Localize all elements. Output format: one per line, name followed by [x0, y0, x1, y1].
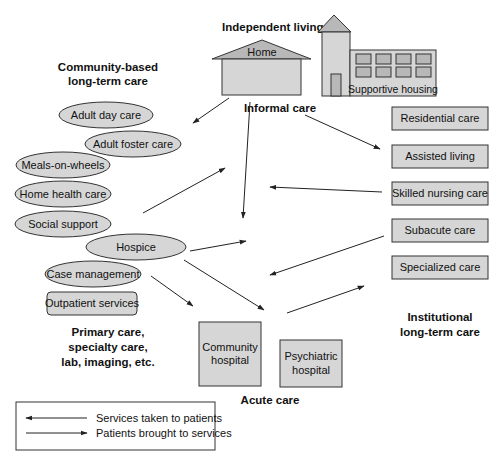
item-label: Assisted living: [405, 150, 475, 162]
community-based-heading-line1: Community-based: [58, 61, 158, 73]
item-social-support: Social support: [15, 211, 111, 237]
arrow-hospice-right: [190, 241, 246, 251]
arrow-skilled-nursing-left: [270, 187, 382, 192]
arrow-informal-to-institutional: [305, 115, 380, 149]
arrow-acute-to-institutional: [287, 286, 364, 313]
item-label: Meals-on-wheels: [21, 159, 105, 171]
independent-living-heading: Independent living: [222, 21, 324, 33]
item-label: Adult foster care: [93, 138, 173, 150]
item-label: Adult day care: [71, 109, 141, 121]
community-hospital: Community hospital: [199, 322, 261, 386]
item-specialized-care: Specialized care: [392, 256, 488, 279]
psychiatric-hospital: Psychiatric hospital: [280, 340, 342, 387]
legend-label-services-taken: Services taken to patients: [96, 412, 222, 424]
flow-arrows: [143, 98, 384, 313]
institutional-heading-line1: Institutional: [407, 311, 472, 323]
item-label: Residential care: [401, 112, 480, 124]
arrow-subacute-left: [270, 236, 384, 275]
item-skilled-nursing-care: Skilled nursing care: [392, 182, 488, 205]
item-meals-on-wheels: Meals-on-wheels: [16, 152, 110, 178]
item-label: Home health care: [20, 188, 107, 200]
arrow-home-to-community: [193, 98, 229, 123]
item-assisted-living: Assisted living: [392, 145, 488, 168]
psychiatric-hospital-line2: hospital: [292, 364, 330, 376]
legend: Services taken to patients Patients brou…: [16, 402, 232, 450]
home-label: Home: [247, 46, 276, 58]
item-label: Specialized care: [400, 261, 481, 273]
item-adult-day-care: Adult day care: [59, 102, 153, 128]
item-label: Subacute care: [405, 224, 476, 236]
item-label: Social support: [28, 218, 98, 230]
arrow-hospice-to-acute: [184, 260, 264, 310]
item-case-management: Case management: [45, 261, 141, 287]
item-adult-foster-care: Adult foster care: [85, 131, 181, 157]
primary-care-line1: Primary care,: [72, 326, 145, 338]
arrow-home-down: [243, 102, 250, 218]
community-hospital-line1: Community: [202, 341, 258, 353]
primary-care-line3: lab, imaging, etc.: [61, 356, 154, 368]
item-label: Case management: [47, 268, 140, 280]
home-building: Home: [212, 40, 311, 95]
supportive-housing-building: Supportive housing: [318, 15, 438, 96]
psychiatric-hospital-line1: Psychiatric: [284, 350, 338, 362]
item-outpatient-services: Outpatient services: [45, 292, 140, 315]
informal-care-label: Informal care: [244, 102, 316, 114]
item-label: Outpatient services: [45, 297, 140, 309]
item-label: Hospice: [116, 241, 156, 253]
institutional-heading-line2: long-term care: [400, 326, 480, 338]
item-subacute-care: Subacute care: [392, 219, 488, 242]
arrow-social-support-up: [143, 168, 225, 213]
supportive-housing-label: Supportive housing: [348, 83, 438, 95]
item-label: Skilled nursing care: [392, 187, 488, 199]
primary-care-line2: specialty care,: [68, 341, 147, 353]
item-residential-care: Residential care: [392, 107, 488, 130]
item-home-health-care: Home health care: [15, 181, 111, 207]
legend-label-patients-brought: Patients brought to services: [96, 427, 232, 439]
long-term-care-diagram: Independent living Home Supportive housi…: [0, 0, 501, 461]
arrow-case-management-to-acute: [151, 276, 193, 306]
item-hospice: Hospice: [86, 234, 186, 260]
community-hospital-line2: hospital: [211, 354, 249, 366]
acute-care-heading: Acute care: [241, 394, 300, 406]
community-based-heading-line2: long-term care: [68, 75, 148, 87]
